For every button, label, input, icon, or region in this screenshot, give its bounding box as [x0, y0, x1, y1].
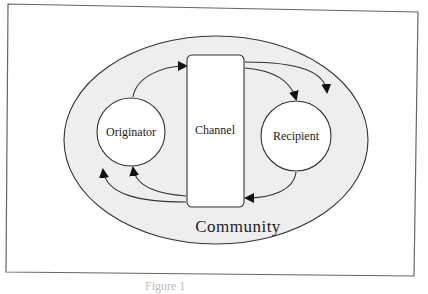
recipient-label: Recipient — [273, 129, 320, 143]
channel-label: Channel — [195, 123, 236, 137]
originator-label: Originator — [106, 125, 156, 139]
community-label: Community — [195, 217, 281, 236]
figure-caption: Figure 1 — [145, 279, 185, 294]
